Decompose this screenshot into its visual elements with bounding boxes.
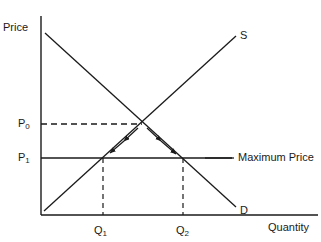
p1-label: P1 — [18, 152, 30, 163]
plot-canvas — [0, 0, 321, 242]
demand-curve — [45, 33, 236, 207]
q2-label-base: Q — [176, 224, 185, 236]
q1-label-base: Q — [94, 224, 103, 236]
demand-arrow-1 — [147, 128, 161, 141]
maximum-price-label: Maximum Price — [238, 152, 314, 163]
q1-label-sub: 1 — [103, 229, 107, 238]
supply-arrow-1 — [124, 128, 138, 141]
p0-label-sub: 0 — [25, 122, 29, 131]
supply-arrow-2 — [110, 141, 124, 153]
demand-curve-label: D — [240, 205, 248, 216]
q2-label: Q2 — [176, 225, 189, 236]
supply-curve-label: S — [240, 30, 247, 41]
demand-arrow-2 — [161, 141, 176, 154]
p1-label-sub: 1 — [25, 156, 29, 165]
x-axis-label: Quantity — [268, 222, 309, 233]
y-axis-label: Price — [3, 22, 28, 33]
p0-label: P0 — [18, 118, 30, 129]
q2-label-sub: 2 — [185, 229, 189, 238]
q1-label: Q1 — [94, 225, 107, 236]
supply-demand-figure: Price Quantity S D P0 P1 Q1 Q2 Maximum P… — [0, 0, 321, 242]
